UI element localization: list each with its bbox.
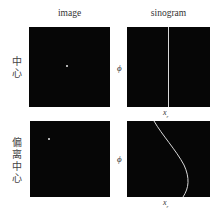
sinogram-curve-off-center (0, 0, 223, 216)
xr-label-sub: r (167, 204, 169, 209)
xr-axis-label-off-center: xr (163, 198, 169, 209)
sinusoid-curve (154, 121, 188, 197)
